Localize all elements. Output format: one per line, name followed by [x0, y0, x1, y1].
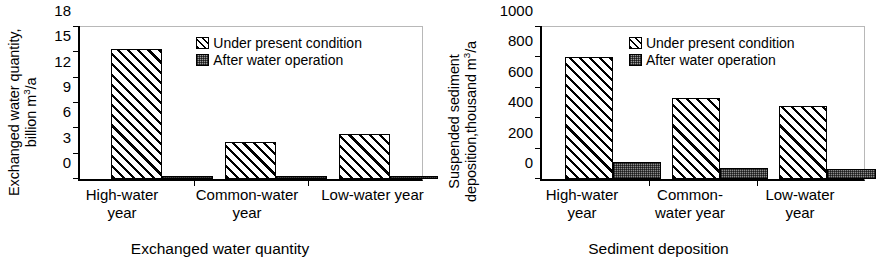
y-tick-label-6-left: 6: [63, 103, 71, 120]
y-tick-label-200-right: 200: [508, 123, 533, 140]
legend-label-after-water-operation-left: After water operation: [213, 52, 343, 68]
y-tick-label-1000-right: 1000: [500, 2, 533, 19]
y-tick-6-left: [73, 127, 80, 128]
x-label-low-water-year-right: Low-water year: [740, 186, 860, 221]
bar-present-high-water-right: [565, 57, 613, 179]
bar-present-common-water-left: [225, 142, 276, 179]
y-tick-200-right: [535, 148, 542, 149]
bar-after-high-water-right: [613, 162, 661, 179]
bar-after-low-water-right: [827, 169, 875, 179]
y-tick-1000-right: [535, 26, 542, 27]
x-label-high-water-year-right: High-water year: [522, 186, 642, 221]
legend-swatch-dots-icon-left: [196, 54, 209, 66]
y-tick-15-left: [73, 51, 80, 52]
x-separator-2-right: [757, 179, 758, 186]
legend-swatch-dots-icon-right: [629, 54, 642, 66]
y-tick-3-left: [73, 153, 80, 154]
legend-label-under-present-condition-right: Under present condition: [646, 35, 795, 51]
legend-label-after-water-operation-right: After water operation: [646, 52, 776, 68]
plot-area-right: 0 200 400 600 800 1000 Under present con…: [540, 26, 865, 181]
legend-left: Under present condition After water oper…: [196, 35, 362, 68]
y-tick-label-18-left: 18: [54, 2, 71, 19]
bar-after-high-water-left: [162, 176, 213, 179]
y-tick-9-left: [73, 102, 80, 103]
y-tick-800-right: [535, 56, 542, 57]
y-tick-label-800-right: 800: [508, 32, 533, 49]
y-tick-label-9-left: 9: [63, 78, 71, 95]
x-separator-1-right: [649, 179, 650, 186]
legend-swatch-hatch-icon-right: [629, 37, 642, 49]
x-separator-1-left: [194, 179, 195, 186]
y-tick-0-left: [73, 178, 80, 179]
legend-right: Under present condition After water oper…: [629, 35, 795, 68]
y-tick-600-right: [535, 87, 542, 88]
legend-item-after-water-operation-left: After water operation: [196, 52, 362, 68]
y-tick-label-0-left: 0: [63, 154, 71, 171]
y-tick-18-left: [73, 26, 80, 27]
y-tick-label-15-left: 15: [54, 27, 71, 44]
x-label-common-water-year-right: Common- water year: [630, 186, 750, 221]
panel-exchanged-water-quantity: Exchanged water quantity, billion m3/a 0…: [0, 0, 440, 272]
bar-present-common-water-right: [672, 98, 720, 179]
y-tick-label-400-right: 400: [508, 93, 533, 110]
x-separator-2-left: [308, 179, 309, 186]
y-axis-title-left: Exchanged water quantity, billion m3/a: [6, 29, 40, 196]
bar-after-low-water-left: [390, 176, 438, 179]
y-axis-title-right: Suspended sediment deposition,thousand m…: [446, 41, 480, 202]
x-label-high-water-year-left: High-water year: [62, 186, 182, 221]
y-tick-0-right: [535, 178, 542, 179]
legend-item-under-present-condition-right: Under present condition: [629, 35, 795, 51]
legend-item-after-water-operation-right: After water operation: [629, 52, 795, 68]
bar-present-high-water-left: [111, 49, 162, 179]
y-tick-label-3-left: 3: [63, 128, 71, 145]
legend-label-under-present-condition-left: Under present condition: [213, 35, 362, 51]
x-label-low-water-year-left: Low-water year: [310, 186, 435, 204]
bar-after-common-water-right: [720, 168, 768, 179]
figure-two-panel-bar-charts: Exchanged water quantity, billion m3/a 0…: [0, 0, 877, 272]
legend-swatch-hatch-icon-left: [196, 37, 209, 49]
bar-present-low-water-right: [779, 106, 827, 179]
bar-present-low-water-left: [339, 134, 390, 179]
y-tick-12-left: [73, 77, 80, 78]
bar-after-common-water-left: [276, 176, 327, 179]
legend-item-under-present-condition-left: Under present condition: [196, 35, 362, 51]
panel-caption-right: Sediment deposition: [440, 240, 877, 258]
y-tick-400-right: [535, 117, 542, 118]
plot-area-left: 0 3 6 9 12 15 18 Under present co: [78, 26, 423, 181]
y-tick-label-12-left: 12: [54, 52, 71, 69]
y-tick-label-600-right: 600: [508, 62, 533, 79]
panel-caption-left: Exchanged water quantity: [0, 240, 440, 258]
superscript-3: 3: [461, 53, 472, 58]
x-label-common-water-year-left: Common-water year: [177, 186, 317, 221]
superscript-3: 3: [21, 89, 32, 94]
panel-sediment-deposition: Suspended sediment deposition,thousand m…: [440, 0, 877, 272]
y-tick-label-0-right: 0: [525, 154, 533, 171]
